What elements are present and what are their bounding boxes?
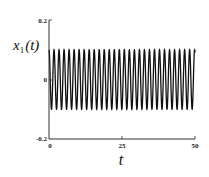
y-tick-label-zero: 0 (44, 76, 48, 84)
x-tick-label-50: 50 (192, 142, 200, 150)
series-line-x1 (49, 50, 195, 110)
x-axis-label: t (119, 151, 124, 168)
plot-area (49, 50, 195, 110)
y-axis-label-arg: (t) (25, 37, 39, 54)
y-axis-label-sub: 1 (20, 45, 25, 55)
x-tick-label-25: 25 (119, 142, 127, 150)
x-tick-label-0: 0 (48, 142, 52, 150)
y-tick-label-bottom: -0.2 (36, 135, 48, 143)
y-tick-label-top: 0.2 (38, 17, 47, 25)
y-axis-label: x1(t) (12, 37, 39, 55)
chart: 0.2 0 -0.2 0 25 50 x1(t) t (0, 0, 209, 177)
